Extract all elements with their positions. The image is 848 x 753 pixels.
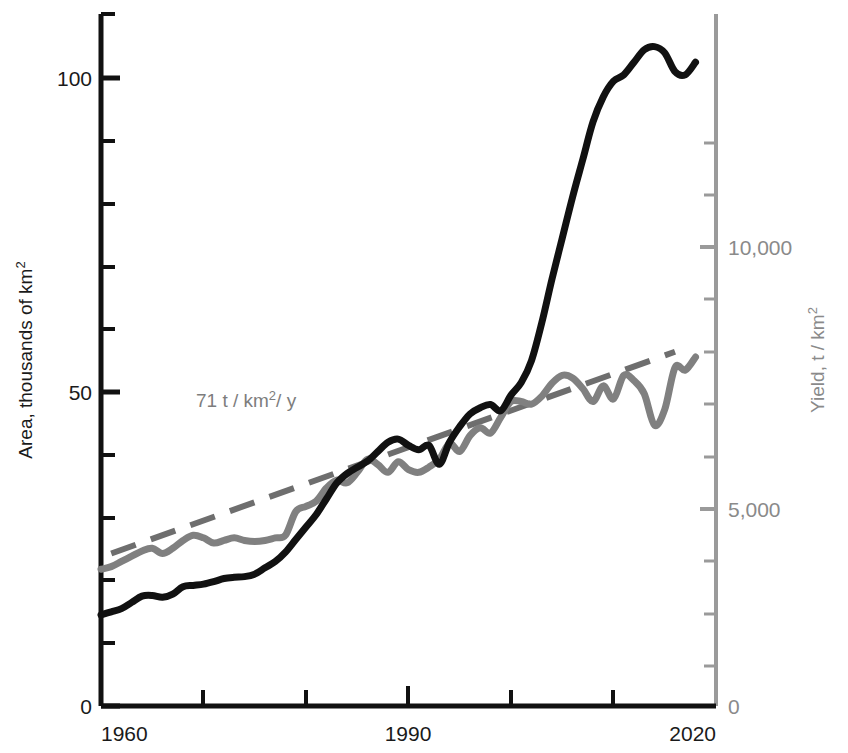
right-axis-tick-label-0: 0 [728,695,740,718]
left-axis-tick-label-100: 100 [57,67,92,90]
chart-canvas: 100 50 0 Area, thousands of km2 [0,0,848,753]
svg-text:Yield, t / km2: Yield, t / km2 [805,307,828,413]
left-axis-tick-label-50: 50 [69,381,92,404]
right-axis-title-text: Yield, t / km [807,314,828,413]
right-axis-tick-label-10000: 10,000 [728,236,792,259]
annotation-text-superscript: 2 [269,388,276,403]
left-axis-title-superscript: 2 [13,261,28,268]
chart-background [0,0,848,753]
right-axis-tick-label-5000: 5,000 [728,498,781,521]
annotation-text-main: 71 t / km [196,390,269,411]
right-axis-title: Yield, t / km2 [805,307,828,413]
chart-figure: 100 50 0 Area, thousands of km2 [0,0,848,753]
x-axis-tick-label-2020: 2020 [669,722,716,745]
x-axis-tick-label-1960: 1960 [101,722,148,745]
annotation-text-tail: / y [276,390,297,411]
svg-text:Area, thousands of km2: Area, thousands of km2 [13,261,36,458]
x-axis-tick-label-1990: 1990 [385,722,432,745]
left-axis-tick-label-0: 0 [80,695,92,718]
right-axis-title-superscript: 2 [805,307,820,314]
left-axis-title-text: Area, thousands of km [15,269,36,459]
annotation-yield-trend-rate: 71 t / km2/ y [196,388,297,411]
left-axis-title: Area, thousands of km2 [13,261,36,458]
